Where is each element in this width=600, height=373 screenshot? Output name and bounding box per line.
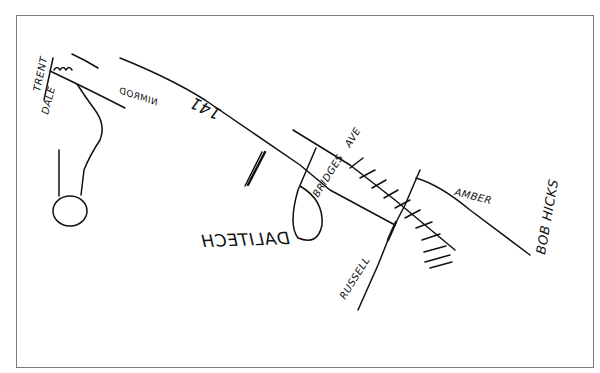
label-nimrod: NIMROD [117, 85, 159, 107]
road-crossing-mark [248, 152, 265, 185]
house-marks [54, 68, 72, 71]
cul-de-sac-loop [53, 196, 87, 226]
label-russell: RUSSELL [337, 255, 372, 301]
label-ave: AVE [342, 125, 363, 150]
road-crossing-mark-2 [245, 152, 262, 186]
hand-drawn-map: TRENT DALE NIMROD 141 DALITECH BRIDGES A… [0, 0, 600, 373]
label-amber: AMBER [453, 186, 494, 206]
label-141: 141 [187, 93, 224, 124]
road-segment-upper [72, 54, 98, 68]
road-main [50, 71, 125, 108]
label-bob-hicks: BOB HICKS [533, 178, 561, 256]
road-dale [77, 84, 102, 195]
label-bridges: BRIDGES [310, 152, 345, 199]
label-dalitech: DALITECH [201, 228, 291, 251]
russell-mark [388, 222, 396, 240]
